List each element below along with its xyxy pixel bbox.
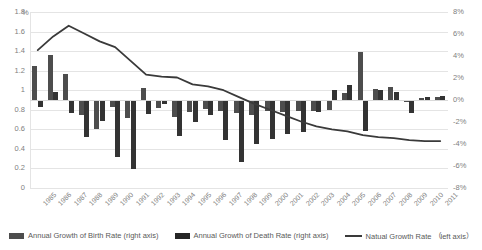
y-axis-left-tick: 1.4 <box>15 47 25 55</box>
chart-container: % 00.20.40.60.811.21.41.61.8 8%6%4%2%0%-… <box>0 0 482 250</box>
line-path <box>38 26 441 141</box>
y-axis-left-tick: 1.6 <box>15 28 25 36</box>
x-axis-tick: 1990 <box>119 191 135 207</box>
x-axis-tick: 1987 <box>72 191 88 207</box>
x-axis-tick: 1993 <box>165 191 181 207</box>
x-axis-tick: 1999 <box>258 191 274 207</box>
x-axis-tick: 2007 <box>382 191 398 207</box>
x-axis-tick: 2008 <box>397 191 413 207</box>
x-axis-tick: 1998 <box>243 191 259 207</box>
x-axis-tick: 1997 <box>227 191 243 207</box>
chart-legend: Annual Growth of Birth Rate (right axis)… <box>0 230 482 241</box>
legend-item-natural-growth-rate: Natual Growth Rate （left axis） <box>345 230 473 241</box>
x-axis-tick: 2005 <box>351 191 367 207</box>
y-axis-left-tick: 0.6 <box>15 125 25 133</box>
y-axis-left-tick: 0 <box>21 184 25 192</box>
y-axis-left-tick: 1.2 <box>15 67 25 75</box>
x-axis-tick: 2009 <box>413 191 429 207</box>
x-axis-tick: 1989 <box>103 191 119 207</box>
y-axis-left-tick: 1.8 <box>15 8 25 16</box>
x-axis-tick: 2011 <box>444 191 460 207</box>
x-axis-tick: 2000 <box>274 191 290 207</box>
legend-label-birth-rate: Annual Growth of Birth Rate (right axis) <box>28 231 158 240</box>
natural-growth-rate-line <box>30 12 448 188</box>
x-axis-tick: 1991 <box>134 191 150 207</box>
y-axis-left-tick: 1 <box>21 86 25 94</box>
legend-label-natural-growth-rate: Natual Growth Rate （left axis） <box>366 230 473 241</box>
x-axis-tick: 1994 <box>181 191 197 207</box>
natural-growth-line-swatch-icon <box>345 235 362 237</box>
birth-rate-swatch-icon <box>9 233 24 239</box>
x-axis-tick: 2003 <box>320 191 336 207</box>
x-axis-tick: 2010 <box>428 191 444 207</box>
y-axis-right-tick: 8% <box>453 8 464 16</box>
y-axis-right-tick: -4% <box>453 140 466 148</box>
x-axis-tick: 1992 <box>150 191 166 207</box>
x-axis-tick: 1996 <box>212 191 228 207</box>
y-axis-right-tick: 4% <box>453 52 464 60</box>
x-axis-tick: 1985 <box>41 191 57 207</box>
x-axis-tick: 1995 <box>196 191 212 207</box>
y-axis-right-tick: -8% <box>453 184 466 192</box>
y-axis-left-tick: 0.2 <box>15 164 25 172</box>
x-axis-tick: 2002 <box>304 191 320 207</box>
legend-item-birth-rate: Annual Growth of Birth Rate (right axis) <box>9 231 158 240</box>
y-axis-right-tick: 0% <box>453 96 464 104</box>
death-rate-swatch-icon <box>175 233 190 239</box>
y-axis-left-tick: 0.8 <box>15 106 25 114</box>
plot-area <box>30 12 448 188</box>
y-axis-left: 00.20.40.60.811.21.41.61.8 <box>0 12 28 188</box>
y-axis-right-tick: 6% <box>453 30 464 38</box>
y-axis-left-tick: 0.4 <box>15 145 25 153</box>
x-axis-tick: 1986 <box>57 191 73 207</box>
x-axis-tick: 1988 <box>88 191 104 207</box>
x-axis-labels: 1985198619871988198919901991199219931994… <box>30 189 448 223</box>
y-axis-right: 8%6%4%2%0%-2%-4%-6%-8% <box>450 12 480 188</box>
y-axis-right-tick: -6% <box>453 162 466 170</box>
x-axis-tick: 2006 <box>366 191 382 207</box>
x-axis-tick: 2001 <box>289 191 305 207</box>
legend-label-death-rate: Annual Growth of Death Rate (right axis) <box>194 231 329 240</box>
y-axis-right-tick: 2% <box>453 74 464 82</box>
legend-item-death-rate: Annual Growth of Death Rate (right axis) <box>175 231 329 240</box>
y-axis-right-tick: -2% <box>453 118 466 126</box>
x-axis-tick: 2004 <box>335 191 351 207</box>
